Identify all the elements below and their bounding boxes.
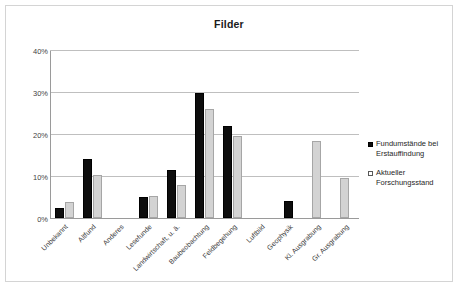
bar-group [50, 51, 78, 218]
bars-layer [50, 51, 359, 218]
bar[interactable] [149, 196, 158, 218]
bar[interactable] [312, 141, 321, 218]
bar[interactable] [93, 175, 102, 218]
y-axis-tick-label: 20% [10, 131, 48, 140]
bar-group [275, 51, 303, 218]
legend-swatch-icon [368, 171, 373, 176]
x-axis-label-slot: Feldbegehung [219, 220, 247, 282]
bar[interactable] [223, 126, 232, 218]
chart-legend: Fundumstände beiErstauffindungAktuellerF… [368, 139, 458, 197]
x-axis-label-slot: Gr. Ausgrabung [331, 220, 359, 282]
chart-title: Filder [6, 18, 452, 30]
legend-swatch-icon [368, 142, 373, 147]
x-axis-line [50, 218, 359, 219]
x-axis-category-label: Unbekannt [40, 223, 69, 252]
bar[interactable] [205, 109, 214, 218]
x-axis-label-slot: Unbekannt [50, 220, 78, 282]
y-axis-tick-label: 10% [10, 173, 48, 182]
y-axis-tick-label: 0% [10, 215, 48, 224]
x-axis-category-label: Anderes [102, 223, 125, 246]
x-axis-category-label: Luftbild [245, 223, 266, 244]
bar-group [219, 51, 247, 218]
x-axis-label-slot: Altfund [78, 220, 106, 282]
bar[interactable] [55, 208, 64, 218]
bar-group [106, 51, 134, 218]
y-axis-tick-labels: 0%10%20%30%40% [6, 51, 48, 219]
bar[interactable] [195, 93, 204, 218]
bar[interactable] [177, 185, 186, 218]
y-axis-tick-label: 40% [10, 47, 48, 56]
bar[interactable] [139, 197, 148, 218]
bar-group [78, 51, 106, 218]
bar-group [190, 51, 218, 218]
legend-label: AktuellerForschungsstand [376, 168, 434, 188]
legend-item[interactable]: AktuellerForschungsstand [368, 168, 458, 188]
bar-group [303, 51, 331, 218]
bar-group [134, 51, 162, 218]
bar-group [162, 51, 190, 218]
chart-frame: Filder 0%10%20%30%40% UnbekanntAltfundAn… [5, 5, 453, 282]
x-axis-label-slot: Anderes [106, 220, 134, 282]
legend-label: Fundumstände beiErstauffindung [376, 139, 438, 159]
bar-group [247, 51, 275, 218]
bar[interactable] [167, 170, 176, 218]
plot-area [50, 51, 359, 219]
bar[interactable] [340, 178, 349, 218]
x-axis-category-labels: UnbekanntAltfundAnderesLesefundeLandwirt… [50, 220, 359, 282]
bar-group [331, 51, 359, 218]
y-axis-tick-label: 30% [10, 89, 48, 98]
bar[interactable] [65, 202, 74, 218]
x-axis-category-label: Altfund [77, 223, 97, 243]
bar[interactable] [83, 159, 92, 218]
legend-item[interactable]: Fundumstände beiErstauffindung [368, 139, 458, 159]
bar[interactable] [284, 201, 293, 218]
bar[interactable] [233, 136, 242, 218]
